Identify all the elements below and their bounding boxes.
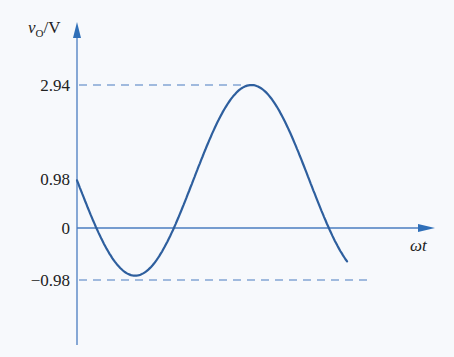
chart-root: vO/V 2.94 0.98 0 −0.98 ωt	[0, 0, 454, 357]
x-axis-arrow-icon	[418, 224, 435, 232]
waveform-curve	[77, 85, 347, 276]
x-axis-label: ωt	[410, 237, 427, 254]
tick-label-0: 0	[10, 220, 70, 237]
y-label-sub: O	[36, 27, 44, 39]
tick-label-2.94: 2.94	[10, 77, 70, 94]
tick-label-0.98: 0.98	[10, 171, 70, 188]
y-label-var: v	[28, 18, 36, 37]
y-axis-arrow-icon	[73, 22, 81, 38]
y-axis-label: vO/V	[28, 19, 61, 39]
tick-label-neg0.98: −0.98	[10, 272, 70, 289]
y-label-unit: /V	[44, 18, 61, 37]
